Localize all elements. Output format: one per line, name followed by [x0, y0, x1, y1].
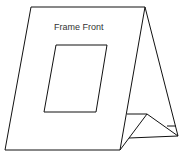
fold-diagonal-left — [129, 114, 147, 138]
fold-base — [129, 136, 178, 138]
frame-diagram: Frame Front — [0, 0, 180, 167]
frame-front-label: Frame Front — [54, 22, 104, 32]
